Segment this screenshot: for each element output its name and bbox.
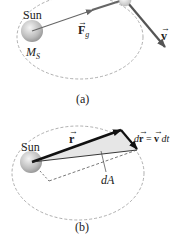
- height-dashed: [40, 171, 49, 181]
- r-label: r: [69, 133, 74, 145]
- mass-subscript: S: [36, 52, 40, 61]
- velocity-label: v: [161, 30, 167, 42]
- sun-label-b: Sun: [21, 141, 40, 153]
- r-vector-symbol: r: [69, 133, 74, 145]
- caption-b: (b): [75, 221, 89, 233]
- kepler-diagram: [0, 0, 181, 243]
- area-label: dA: [101, 174, 114, 186]
- mass-label: MS: [26, 46, 40, 63]
- dr-r-symbol: r: [139, 133, 143, 145]
- velocity-arrow: [128, 3, 165, 47]
- force-vector-symbol: F: [78, 24, 85, 36]
- sun-b: [20, 151, 42, 173]
- sun-label-a: Sun: [23, 9, 42, 21]
- mass-symbol: M: [26, 45, 36, 59]
- dr-v-symbol: v: [154, 133, 159, 145]
- force-subscript: g: [85, 30, 89, 39]
- dr-equation-label: dr = v dt: [134, 133, 169, 145]
- velocity-vector-symbol: v: [161, 30, 167, 42]
- force-label: Fg: [78, 24, 89, 41]
- caption-a: (a): [76, 93, 89, 105]
